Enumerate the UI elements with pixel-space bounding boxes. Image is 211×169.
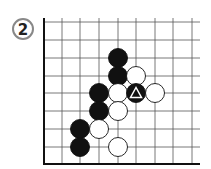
black-stone	[71, 120, 90, 139]
white-stone	[109, 138, 128, 157]
white-stone	[146, 84, 165, 103]
white-stone	[109, 84, 128, 103]
diagram-number-badge: 2	[13, 19, 33, 39]
stones-layer	[71, 49, 165, 157]
diagram-number: 2	[18, 21, 28, 39]
black-stone	[127, 84, 146, 103]
go-board-diagram: 2	[0, 0, 211, 169]
black-stone	[71, 138, 90, 157]
black-stone	[109, 67, 128, 86]
white-stone	[90, 120, 109, 139]
white-stone	[109, 102, 128, 121]
black-stone	[90, 102, 109, 121]
black-stone	[90, 84, 109, 103]
black-stone	[109, 49, 128, 68]
white-stone	[127, 67, 146, 86]
